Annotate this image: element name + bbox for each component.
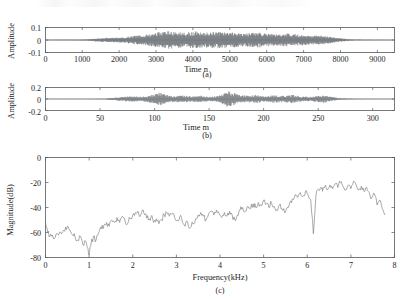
panel-c-xtick-6: 6 — [305, 261, 309, 270]
panel-a-ytick-0: 0.1 — [31, 24, 41, 33]
panel-c-xticks — [46, 158, 395, 258]
panel-c-yaxis-labels: 0 -20 -40 -60 -80 — [30, 154, 41, 263]
panel-b-ylabel: Amplitude — [7, 83, 16, 119]
panel-a-xtick-8: 8000 — [332, 55, 348, 64]
panel-a-ylabel: Amplitude — [7, 23, 16, 59]
panel-a-ytick-1: 0 — [37, 37, 41, 46]
panel-c-xtick-8: 8 — [392, 261, 396, 270]
panel-b-time-waveform: 0.2 0 -0.2 Amplitude — [0, 80, 411, 138]
panel-c-xtick-4: 4 — [218, 261, 222, 270]
figure-container: 0.1 0 -0.1 Amplitude — [0, 0, 411, 299]
panel-b-xtick-4: 200 — [258, 114, 270, 123]
panel-c-xtick-3: 3 — [174, 261, 178, 270]
panel-a-time-waveform: 0.1 0 -0.1 Amplitude — [0, 10, 411, 72]
panel-c-ylabel: Magnitude(dB) — [6, 184, 15, 236]
panel-b-xtick-0: 0 — [43, 114, 47, 123]
panel-c-xlabel: Frequency(kHz) — [193, 273, 248, 282]
panel-a-waveform-trace — [46, 31, 395, 48]
panel-a-xtick-2: 2000 — [111, 55, 127, 64]
panel-b-xtick-3: 150 — [203, 114, 215, 123]
panel-b-ytick-1: 0 — [37, 96, 41, 105]
panel-a-ytick-2: -0.1 — [28, 49, 41, 58]
panel-c-caption: (c) — [215, 286, 224, 295]
panel-a-caption: (a) — [202, 70, 211, 79]
panel-b-ytick-2: -0.2 — [28, 108, 41, 117]
panel-b-caption: (b) — [202, 131, 212, 140]
panel-b-xaxis-labels: 0 50 100 150 200 250 300 — [43, 114, 378, 123]
panel-c-ytick-1: -20 — [30, 179, 41, 188]
panel-c-xtick-1: 1 — [87, 261, 91, 270]
panel-c-ytick-4: -80 — [30, 254, 41, 263]
panel-c-xtick-0: 0 — [43, 261, 47, 270]
panel-c-xtick-7: 7 — [349, 261, 353, 270]
panel-a-xtick-1: 1000 — [74, 55, 90, 64]
panel-b-xtick-1: 50 — [96, 114, 104, 123]
panel-b-xtick-2: 100 — [149, 114, 161, 123]
panel-b-yaxis-labels: 0.2 0 -0.2 — [28, 84, 41, 117]
cropped-caption-artifact — [36, 0, 316, 7]
panel-a-xtick-7: 7000 — [296, 55, 312, 64]
panel-b-ytick-0: 0.2 — [31, 84, 41, 93]
panel-b-xtick-6: 300 — [367, 114, 379, 123]
panel-a-xtick-9: 9000 — [369, 55, 385, 64]
panel-c-ytick-0: 0 — [37, 154, 41, 163]
panel-c-xtick-5: 5 — [262, 261, 266, 270]
panel-c-spectrum-trace — [46, 181, 385, 255]
panel-a-xtick-6: 6000 — [259, 55, 275, 64]
panel-a-yaxis-labels: 0.1 0 -0.1 — [28, 24, 41, 58]
panel-b-xtick-5: 250 — [312, 114, 324, 123]
panel-c-yticks-marks — [46, 158, 395, 258]
panel-a-caption-wrap: (a) — [0, 68, 411, 80]
panel-c-ytick-2: -40 — [30, 204, 41, 213]
panel-a-xtick-4: 4000 — [185, 55, 201, 64]
panel-a-xaxis-labels: 0 1000 2000 3000 4000 5000 6000 7000 800… — [43, 55, 385, 64]
panel-a-xtick-3: 3000 — [148, 55, 164, 64]
panel-c-xtick-2: 2 — [131, 261, 135, 270]
panel-b-waveform-trace — [46, 91, 395, 106]
panel-a-xtick-5: 5000 — [222, 55, 238, 64]
panel-c-xaxis-labels: 0 1 2 3 4 5 6 7 8 — [43, 261, 396, 270]
panel-c-magnitude-spectrum: 0 -20 -40 -60 -80 Magnitude(dB) — [0, 145, 411, 299]
panel-a-xtick-0: 0 — [43, 55, 47, 64]
panel-c-ytick-3: -60 — [30, 229, 41, 238]
